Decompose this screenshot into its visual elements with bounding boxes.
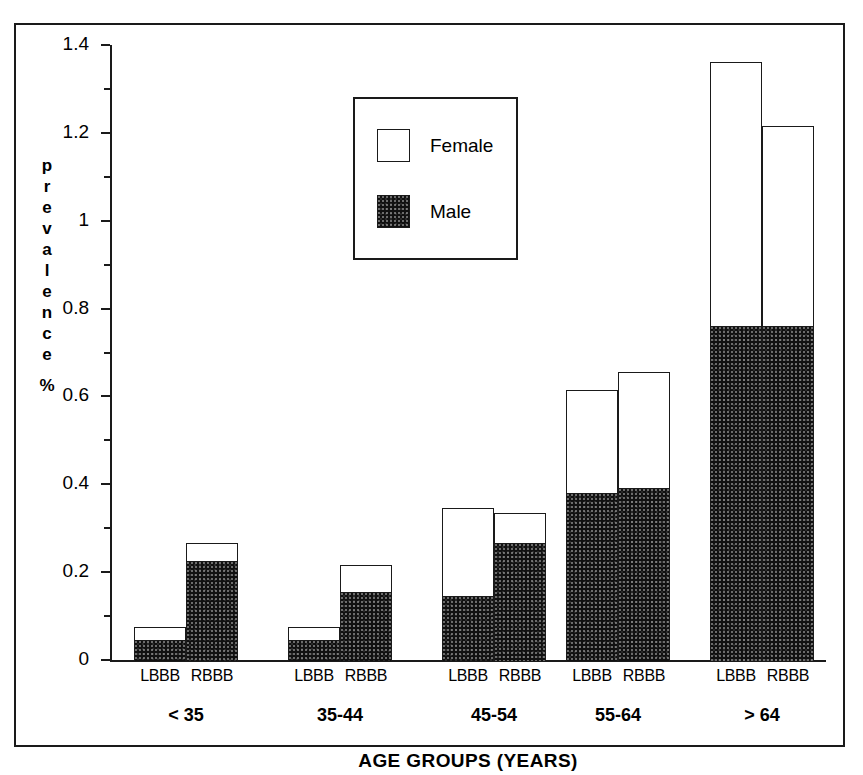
y-axis-title-char: n	[34, 302, 60, 323]
y-axis-title-char: e	[34, 344, 60, 365]
y-axis-minor-tick	[104, 615, 110, 617]
y-axis-tick-label: 1	[78, 209, 89, 231]
bar-segment-male[interactable]	[442, 596, 494, 662]
y-axis-tick-label: 0	[78, 648, 89, 670]
chart-legend: Female Male	[353, 97, 518, 260]
x-subtick-label-lbbb: LBBB	[566, 667, 618, 685]
y-axis-tick: 1.2	[101, 132, 110, 134]
y-axis-tick: 1.4	[101, 44, 110, 46]
y-axis-tick: 0	[101, 659, 110, 661]
bar-lbbb[interactable]	[566, 390, 618, 662]
x-subtick-label-lbbb: LBBB	[710, 667, 762, 685]
legend-label-female: Female	[430, 135, 493, 157]
bar-segment-male[interactable]	[134, 640, 186, 662]
x-subtick-label-rbbb: RBBB	[340, 667, 392, 685]
x-group-label: > 64	[710, 705, 814, 726]
y-axis-title-char: p	[34, 155, 60, 176]
y-axis-title-char: e	[34, 281, 60, 302]
x-axis-title: AGE GROUPS (YEARS)	[110, 750, 826, 772]
bar-segment-male[interactable]	[288, 640, 340, 662]
bar-segment-male[interactable]	[618, 488, 670, 662]
spacer	[34, 365, 60, 375]
bar-segment-male[interactable]	[566, 493, 618, 662]
y-axis-tick-label: 0.6	[63, 384, 89, 406]
bar-rbbb[interactable]	[618, 372, 670, 662]
bar-lbbb[interactable]	[134, 627, 186, 662]
bar-segment-male[interactable]	[186, 561, 238, 662]
y-axis-minor-tick	[104, 88, 110, 90]
y-axis-tick-label: 1.4	[63, 33, 89, 55]
y-axis-tick-label: 0.2	[63, 560, 89, 582]
legend-item-male: Male	[377, 195, 471, 228]
y-axis-tick: 0.8	[101, 308, 110, 310]
legend-item-female: Female	[377, 129, 493, 162]
female-swatch-icon	[377, 129, 410, 162]
bar-segment-male[interactable]	[710, 326, 762, 662]
x-group-label: < 35	[134, 705, 238, 726]
bar-segment-male[interactable]	[494, 543, 546, 662]
bar-rbbb[interactable]	[186, 543, 238, 662]
y-axis-minor-tick	[104, 527, 110, 529]
x-subtick-label-lbbb: LBBB	[134, 667, 186, 685]
y-axis-minor-tick	[104, 264, 110, 266]
y-axis-title-char: e	[34, 197, 60, 218]
y-axis-title-char: r	[34, 176, 60, 197]
chart-figure-frame: p r e v a l e n c e % 00.20.40.60.811.21…	[14, 23, 845, 747]
x-group-label: 45-54	[442, 705, 546, 726]
y-axis-tick-label: 0.4	[63, 472, 89, 494]
male-swatch-icon	[377, 195, 410, 228]
bar-lbbb[interactable]	[288, 627, 340, 662]
bar-rbbb[interactable]	[494, 513, 546, 662]
y-axis-minor-tick	[104, 439, 110, 441]
bar-lbbb[interactable]	[710, 62, 762, 662]
plot-area: 00.20.40.60.811.21.4 LBBBRBBBLBBBRBBBLBB…	[110, 45, 826, 662]
x-group-label: 35-44	[288, 705, 392, 726]
y-axis-line	[110, 45, 112, 662]
y-axis-tick: 0.2	[101, 571, 110, 573]
y-axis-title-char: l	[34, 260, 60, 281]
y-axis-tick-label: 0.8	[63, 297, 89, 319]
y-axis-tick: 0.6	[101, 395, 110, 397]
bar-segment-male[interactable]	[340, 592, 392, 662]
y-axis-title-char: v	[34, 218, 60, 239]
y-axis-title: p r e v a l e n c e %	[34, 155, 60, 396]
x-subtick-label-rbbb: RBBB	[186, 667, 238, 685]
y-axis-unit: %	[34, 375, 60, 396]
y-axis-title-char: a	[34, 239, 60, 260]
x-subtick-label-rbbb: RBBB	[494, 667, 546, 685]
x-group-label: 55-64	[566, 705, 670, 726]
y-axis-minor-tick	[104, 352, 110, 354]
bar-rbbb[interactable]	[340, 565, 392, 662]
y-axis-tick-label: 1.2	[63, 121, 89, 143]
legend-label-male: Male	[430, 201, 471, 223]
x-subtick-label-lbbb: LBBB	[288, 667, 340, 685]
x-subtick-label-rbbb: RBBB	[762, 667, 814, 685]
bar-lbbb[interactable]	[442, 508, 494, 662]
y-axis-title-char: c	[34, 323, 60, 344]
y-axis-tick: 1	[101, 220, 110, 222]
y-axis-tick: 0.4	[101, 483, 110, 485]
x-subtick-label-lbbb: LBBB	[442, 667, 494, 685]
bar-rbbb[interactable]	[762, 126, 814, 662]
x-subtick-label-rbbb: RBBB	[618, 667, 670, 685]
bar-segment-male[interactable]	[762, 326, 814, 662]
y-axis-minor-tick	[104, 176, 110, 178]
